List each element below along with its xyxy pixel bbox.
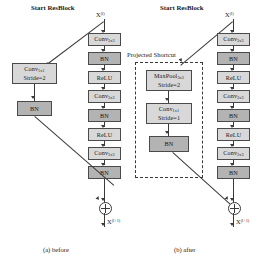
node-relu2-b[interactable]: ReLU [217,128,250,141]
node-relu1-b[interactable]: ReLU [217,71,250,84]
node-shortcut-bn-b[interactable]: BN [149,136,189,152]
arrowhead-shortcut-to-add-b [225,196,230,201]
node-bn1-b[interactable]: BN [217,52,250,65]
node-shortcut-bn-a-text: BN [30,105,39,112]
panel-before: Start ResBlock X(l) Conv3x3 BN ReLU Conv… [0,0,129,266]
input-tensor-superscript-b: (l) [230,11,234,16]
input-tensor-label-b: X(l) [225,11,234,18]
node-relu2-a[interactable]: ReLU [88,128,121,141]
add-node-a[interactable] [99,202,112,215]
node-shortcut-maxpool-b-line1: MaxPool3x3 [154,72,184,81]
node-conv2-b-text: Conv3x3 [223,92,243,101]
node-conv2-a[interactable]: Conv3x3 [88,90,121,103]
node-shortcut-maxpool-b[interactable]: MaxPool3x3 Stride=2 [146,70,192,91]
node-relu1-a[interactable]: ReLU [88,71,121,84]
input-tensor-label-a: X(l) [96,11,105,18]
node-shortcut-conv-a-line1: Conv1x1 [24,65,44,74]
node-shortcut-maxpool-b-line2: Stride=2 [158,81,180,88]
node-bn2-a[interactable]: BN [88,109,121,122]
panel-after: Start ResBlock X(l) Conv3x3 BN ReLU Conv… [129,0,258,266]
node-conv2-b[interactable]: Conv3x3 [217,90,250,103]
node-shortcut-bn-b-text: BN [165,140,174,147]
start-resblock-label-b: Start ResBlock [160,4,204,11]
node-conv3-a[interactable]: Conv3x3 [88,147,121,160]
node-bn1-a[interactable]: BN [88,52,121,65]
node-bn3-b-text: BN [229,169,238,176]
node-conv2-a-text: Conv3x3 [94,92,114,101]
node-bn2-b-text: BN [229,112,238,119]
node-bn3-b[interactable]: BN [217,166,250,179]
node-shortcut-conv-a-line2: Stride=2 [23,74,45,81]
node-conv1-a[interactable]: Conv3x3 [88,33,121,46]
node-bn1-b-text: BN [229,55,238,62]
edge-maxpool-conv-b [168,91,169,103]
edge-conv-bn-shortcut-b [168,124,169,136]
node-shortcut-conv-b-line2: Stride=1 [158,114,180,121]
node-relu1-b-text: ReLU [226,74,242,81]
node-shortcut-bn-a[interactable]: BN [17,101,52,116]
arrowhead-bn3-add-b [230,198,234,201]
node-shortcut-conv-a[interactable]: Conv1x1 Stride=2 [12,63,57,84]
start-resblock-label-a: Start ResBlock [31,4,75,11]
node-conv3-a-text: Conv3x3 [94,149,114,158]
node-bn2-a-text: BN [100,112,109,119]
node-conv1-b-text: Conv3x3 [223,35,243,44]
node-bn1-a-text: BN [100,55,109,62]
output-tensor-superscript-a: (l+1) [112,218,121,223]
projected-shortcut-label: Projected Shortcut [127,51,176,58]
node-conv1-b[interactable]: Conv3x3 [217,33,250,46]
add-node-b[interactable] [228,202,241,215]
node-conv1-a-text: Conv3x3 [94,35,114,44]
arrowhead-maxpool-conv-b [165,98,169,101]
node-conv3-b-text: Conv3x3 [223,149,243,158]
node-bn2-b[interactable]: BN [217,109,250,122]
node-shortcut-conv-b-line1: Conv1x1 [159,105,179,114]
node-relu2-a-text: ReLU [97,131,113,138]
arrowhead-add-to-output-b [230,223,234,226]
output-tensor-label-b: X(l+1) [236,218,249,225]
node-shortcut-conv-b[interactable]: Conv1x1 Stride=1 [146,103,192,124]
node-conv3-b[interactable]: Conv3x3 [217,147,250,160]
arrowhead-conv-bn-shortcut-b [165,131,169,134]
output-tensor-superscript-b: (l+1) [241,218,250,223]
node-relu2-b-text: ReLU [226,131,242,138]
arrowhead-bn3-add-a [101,198,105,201]
input-tensor-superscript-a: (l) [101,11,105,16]
arrowhead-add-to-output-a [101,223,105,226]
arrowhead-shortcutconv-shortcutbn-a [31,96,35,99]
output-tensor-label-a: X(l+1) [107,218,120,225]
caption-a: (a) before [43,246,69,253]
node-relu1-a-text: ReLU [97,74,113,81]
caption-b: (b) after [174,246,195,253]
arrowhead-shortcut-to-add-a [96,196,101,201]
